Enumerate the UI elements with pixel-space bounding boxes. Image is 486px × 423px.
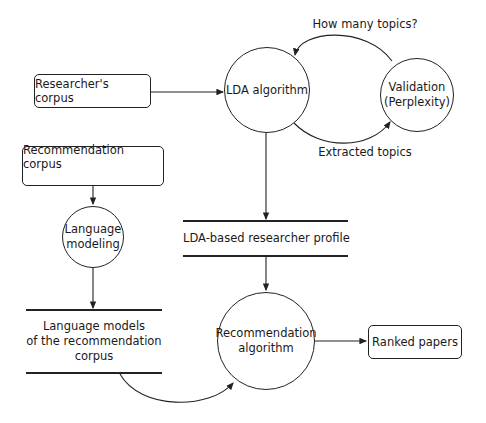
edge-label-extracted-topics: Extracted topics: [300, 145, 430, 160]
node-recommendation-corpus: Recommendation corpus: [22, 146, 164, 186]
node-ranked-papers: Ranked papers: [368, 325, 462, 359]
node-validation: Validation (Perplexity): [380, 58, 454, 132]
node-language-models: Language models of the recommendation co…: [26, 319, 162, 364]
edge-label-how-many-topics: How many topics?: [300, 17, 430, 32]
edge-models-to-rec: [120, 374, 233, 402]
node-recommendation-algorithm: Recommendation algorithm: [217, 292, 315, 390]
node-lda-profile: LDA-based researcher profile: [183, 231, 348, 246]
node-lda-algorithm: LDA algorithm: [224, 47, 310, 133]
node-language-modeling: Language modeling: [62, 206, 124, 268]
edge-lda-to-validation: [294, 122, 390, 143]
edge-validation-to-lda: [295, 35, 392, 61]
node-researchers-corpus: Researcher's corpus: [34, 74, 151, 108]
